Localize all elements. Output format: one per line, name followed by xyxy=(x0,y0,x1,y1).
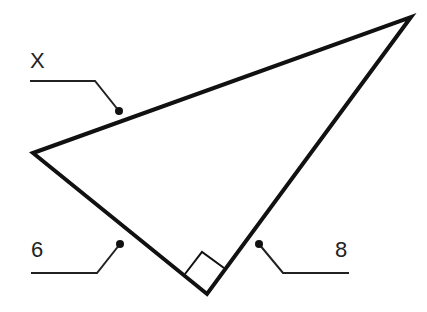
left-leg-label: 6 xyxy=(31,237,43,262)
hypotenuse-leader-line xyxy=(30,81,119,111)
left-leg-leader-dot xyxy=(116,240,124,248)
hypotenuse-label: X xyxy=(30,48,45,73)
right-angle-marker xyxy=(185,252,224,274)
right-leg-label: 8 xyxy=(335,237,347,262)
triangle-diagram: X 6 8 xyxy=(0,0,427,312)
left-leg-leader-line xyxy=(31,244,120,273)
triangle-shape xyxy=(33,17,411,294)
right-leg-leader-dot xyxy=(255,240,263,248)
hypotenuse-leader-dot xyxy=(115,107,123,115)
